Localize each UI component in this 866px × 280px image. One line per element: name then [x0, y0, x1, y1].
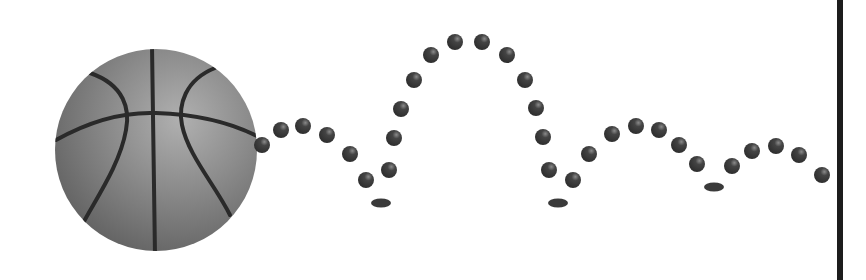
trajectory-dot — [565, 172, 581, 188]
vertical-divider — [837, 0, 843, 280]
trajectory-dot — [358, 172, 374, 188]
trajectory-dot — [342, 146, 358, 162]
trajectory-dot — [528, 100, 544, 116]
trajectory-dot — [671, 137, 687, 153]
trajectory-dot — [393, 101, 409, 117]
trajectory-dot — [254, 137, 270, 153]
bounce-mark — [371, 199, 391, 208]
trajectory-dot — [604, 126, 620, 142]
trajectory-dot — [581, 146, 597, 162]
trajectory-dot — [273, 122, 289, 138]
basketball-icon — [55, 46, 257, 255]
trajectory-dot — [474, 34, 490, 50]
trajectory-dots — [254, 34, 830, 188]
trajectory-dot — [386, 130, 402, 146]
trajectory-dot — [628, 118, 644, 134]
trajectory-dot — [724, 158, 740, 174]
bounce-mark — [704, 183, 724, 192]
trajectory-dot — [499, 47, 515, 63]
trajectory-dot — [651, 122, 667, 138]
trajectory-dot — [541, 162, 557, 178]
trajectory-dot — [744, 143, 760, 159]
bounce-mark — [548, 199, 568, 208]
bouncing-ball-illustration — [0, 0, 866, 280]
trajectory-dot — [517, 72, 533, 88]
trajectory-dot — [423, 47, 439, 63]
trajectory-dot — [319, 127, 335, 143]
trajectory-dot — [295, 118, 311, 134]
bounce-marks — [371, 183, 724, 208]
trajectory-dot — [535, 129, 551, 145]
trajectory-dot — [447, 34, 463, 50]
trajectory-dot — [791, 147, 807, 163]
trajectory-dot — [768, 138, 784, 154]
trajectory-dot — [814, 167, 830, 183]
trajectory-dot — [406, 72, 422, 88]
trajectory-dot — [689, 156, 705, 172]
trajectory-dot — [381, 162, 397, 178]
